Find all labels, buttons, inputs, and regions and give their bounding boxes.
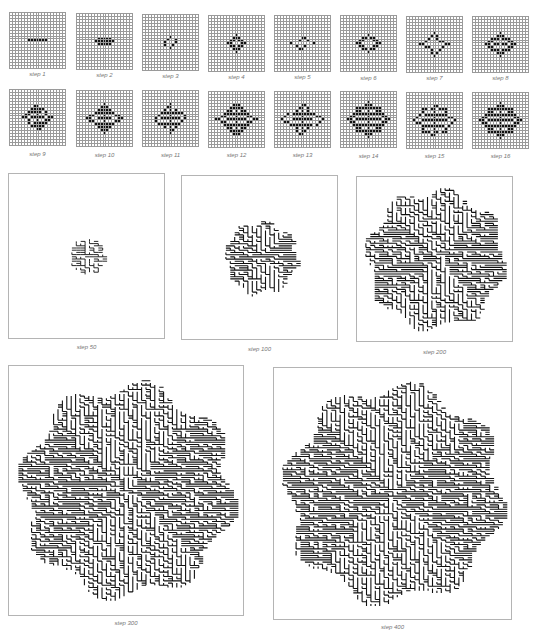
cell-grid	[142, 14, 199, 71]
panel-caption: step 14	[340, 153, 397, 159]
panel-caption: step 300	[8, 620, 244, 626]
panel-caption: step 9	[9, 151, 66, 157]
panel-caption: step 7	[406, 75, 463, 81]
panel-caption: step 4	[208, 74, 265, 80]
cell-grid	[340, 15, 397, 72]
cell-grid	[208, 15, 265, 72]
maze-pattern	[357, 177, 512, 341]
panel-caption: step 50	[8, 344, 165, 350]
panel-frame	[8, 365, 244, 616]
cell-grid	[208, 91, 265, 148]
panel-caption: step 12	[208, 152, 265, 158]
cell-grid	[406, 16, 463, 73]
panel-caption: step 8	[472, 75, 529, 81]
panel-caption: step 11	[142, 152, 199, 158]
panel-caption: step 6	[340, 75, 397, 81]
panel-caption: step 2	[76, 72, 133, 78]
maze-pattern	[182, 176, 337, 339]
panel-caption: step 15	[406, 153, 463, 159]
panel-frame	[8, 173, 165, 339]
cell-grid	[9, 89, 66, 146]
panel-caption: step 10	[76, 152, 133, 158]
panel-frame	[356, 176, 513, 342]
cell-grid	[274, 15, 331, 72]
panel-caption: step 200	[356, 349, 513, 355]
cell-grid	[472, 16, 529, 73]
panel-caption: step 100	[181, 346, 338, 352]
panel-caption: step 5	[274, 74, 331, 80]
cell-grid	[472, 92, 529, 149]
cell-grid	[9, 12, 66, 69]
maze-pattern	[9, 366, 243, 615]
cell-grid	[76, 13, 133, 70]
panel-caption: step 13	[274, 152, 331, 158]
maze-pattern	[9, 174, 164, 338]
cell-grid	[340, 91, 397, 148]
maze-pattern	[274, 368, 511, 619]
cell-grid	[76, 90, 133, 147]
panel-frame	[181, 175, 338, 340]
panel-caption: step 16	[472, 153, 529, 159]
panel-caption: step 400	[273, 624, 512, 630]
cell-grid	[274, 91, 331, 148]
panel-caption: step 3	[142, 73, 199, 79]
panel-frame	[273, 367, 512, 620]
cell-grid	[142, 90, 199, 147]
panel-caption: step 1	[9, 71, 66, 77]
cell-grid	[406, 92, 463, 149]
